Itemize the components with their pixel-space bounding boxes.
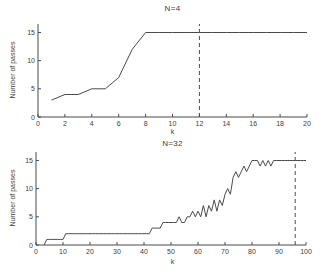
x-tick-label: 10 [59,248,67,255]
x-tick-label: 20 [303,120,311,127]
chart-n4: 02468101214161820051015 [27,24,311,127]
chart-n32: 0102030405060708090100051015 [25,152,312,255]
x-tick-label: 6 [117,120,121,127]
x-tick-label: 18 [276,120,284,127]
x-tick-label: 60 [194,248,202,255]
x-tick-label: 12 [196,120,204,127]
x-tick-label: 8 [144,120,148,127]
x-tick-label: 4 [90,120,94,127]
y-tick-label: 0 [29,242,33,249]
x-tick-label: 70 [221,248,229,255]
figure-canvas: N=4 Number of passes k N=32 Number of pa… [0,0,328,279]
y-tick-label: 5 [31,85,35,92]
x-tick-label: 80 [248,248,256,255]
x-tick-label: 20 [86,248,94,255]
y-tick-label: 10 [25,185,33,192]
y-tick-label: 5 [29,213,33,220]
x-tick-label: 100 [300,248,312,255]
x-tick-label: 16 [249,120,257,127]
x-tick-label: 10 [169,120,177,127]
y-tick-label: 0 [31,114,35,121]
line-charts: 0246810121416182005101501020304050607080… [0,0,328,279]
y-tick-label: 15 [27,29,35,36]
x-tick-label: 50 [167,248,175,255]
x-tick-label: 2 [63,120,67,127]
x-tick-label: 0 [34,248,38,255]
x-tick-label: 14 [222,120,230,127]
passes-line-series [52,33,308,101]
x-tick-label: 30 [113,248,121,255]
x-tick-label: 40 [140,248,148,255]
y-tick-label: 15 [25,157,33,164]
y-tick-label: 10 [27,57,35,64]
x-tick-label: 0 [36,120,40,127]
x-tick-label: 90 [275,248,283,255]
passes-line-series [44,161,306,246]
